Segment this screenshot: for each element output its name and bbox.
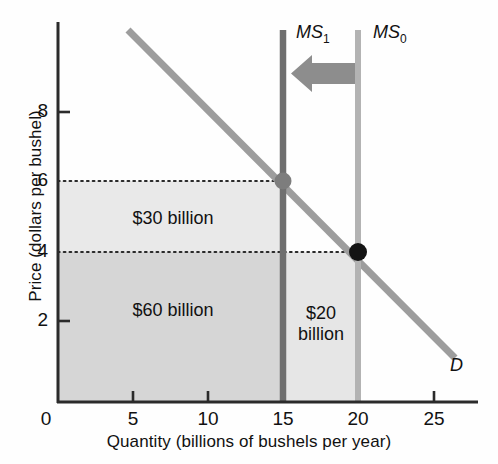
x-axis-title: Quantity (billions of bushels per year) xyxy=(0,432,498,452)
equilibrium-point-old xyxy=(349,243,367,261)
region-60-billion-label: $60 billion xyxy=(108,300,238,321)
region-30-billion-label: $30 billion xyxy=(108,208,238,229)
ms1-label-text: MS xyxy=(296,22,323,42)
ms0-label-subscript: 0 xyxy=(400,32,407,46)
y-tick-label-2: 2 xyxy=(22,309,48,331)
economics-supply-shift-chart: Price (dollars per bushel) Quantity (bil… xyxy=(0,0,498,464)
ms0-curve-label: MS0 xyxy=(373,22,407,46)
region-20-billion-label-line1: $20 xyxy=(288,303,354,324)
x-tick-label-5: 5 xyxy=(116,408,150,430)
y-tick-label-6: 6 xyxy=(22,169,48,191)
x-tick-label-15: 15 xyxy=(266,408,300,430)
ms0-label-text: MS xyxy=(373,22,400,42)
equilibrium-point-new xyxy=(275,173,292,190)
x-tick-label-0: 0 xyxy=(29,408,63,430)
region-20-billion-label-line2: billion xyxy=(288,324,354,345)
y-tick-label-4: 4 xyxy=(22,240,48,262)
ms1-label-subscript: 1 xyxy=(323,32,330,46)
x-tick-label-20: 20 xyxy=(341,408,375,430)
ms1-curve-label: MS1 xyxy=(296,22,330,46)
x-tick-label-25: 25 xyxy=(417,408,451,430)
chart-canvas xyxy=(0,0,498,464)
y-tick-label-8: 8 xyxy=(22,100,48,122)
demand-curve-label: D xyxy=(450,355,463,376)
x-tick-label-10: 10 xyxy=(191,408,225,430)
y-axis-title: Price (dollars per bushel) xyxy=(26,96,46,316)
region-20-billion-label: $20 billion xyxy=(288,303,354,344)
supply-shift-arrow xyxy=(291,55,355,92)
region-60-billion xyxy=(58,252,283,402)
